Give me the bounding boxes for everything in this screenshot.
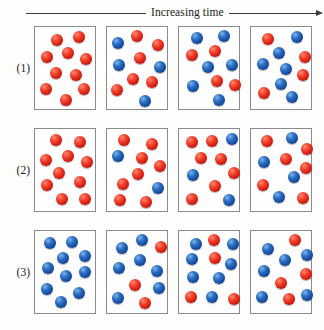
red-sphere (40, 83, 52, 95)
blue-sphere (116, 242, 128, 254)
blue-sphere (213, 272, 225, 284)
red-sphere (80, 53, 92, 65)
red-sphere (146, 138, 158, 150)
blue-sphere (139, 95, 151, 107)
row2-box3 (178, 128, 240, 212)
blue-sphere (154, 61, 166, 73)
blue-sphere (202, 61, 214, 73)
row-3-label: (3) (0, 266, 34, 278)
row-3-boxes (34, 230, 324, 314)
row3-box3 (178, 230, 240, 314)
red-sphere (289, 234, 301, 246)
red-sphere (195, 152, 207, 164)
blue-sphere (152, 182, 164, 194)
red-sphere (41, 51, 53, 63)
red-sphere (53, 167, 65, 179)
blue-sphere (73, 287, 85, 299)
blue-sphere (275, 78, 287, 90)
row1-box3 (178, 26, 240, 110)
blue-sphere (213, 94, 225, 106)
blue-sphere (191, 32, 203, 44)
row1-box4 (250, 26, 312, 110)
blue-sphere (44, 237, 56, 249)
row-1-label: (1) (0, 62, 34, 74)
blue-sphere (258, 156, 270, 168)
red-sphere (297, 69, 309, 81)
red-sphere (74, 176, 86, 188)
red-sphere (229, 79, 241, 91)
red-sphere (208, 234, 220, 246)
blue-sphere (273, 47, 285, 59)
blue-sphere (257, 58, 269, 70)
red-sphere (297, 192, 309, 204)
row2-box2 (106, 128, 168, 212)
red-sphere (60, 94, 72, 106)
row-1: (1) (0, 24, 324, 112)
red-sphere (275, 277, 287, 289)
blue-sphere (151, 265, 163, 277)
blue-sphere (79, 250, 91, 262)
red-sphere (40, 154, 52, 166)
blue-sphere (60, 270, 72, 282)
red-sphere (127, 73, 139, 85)
blue-sphere (226, 133, 238, 145)
red-sphere (111, 84, 123, 96)
blue-sphere (113, 59, 125, 71)
red-sphere (73, 31, 85, 43)
red-sphere (62, 47, 74, 59)
row-1-boxes (34, 26, 324, 110)
red-sphere (51, 34, 63, 46)
red-sphere (118, 134, 130, 146)
blue-sphere (113, 262, 125, 274)
red-sphere (62, 150, 74, 162)
arrow-right-icon (316, 10, 323, 16)
red-sphere (185, 291, 197, 303)
blue-sphere (41, 283, 53, 295)
red-sphere (206, 135, 218, 147)
red-sphere (131, 30, 143, 42)
axis-line-left (26, 13, 146, 14)
blue-sphere (273, 191, 285, 203)
row-3: (3) (0, 228, 324, 316)
red-sphere (261, 135, 273, 147)
blue-sphere (288, 171, 300, 183)
blue-sphere (57, 252, 69, 264)
red-sphere (41, 179, 53, 191)
blue-sphere (301, 289, 313, 301)
red-sphere (209, 180, 221, 192)
red-sphere (258, 87, 270, 99)
red-sphere (74, 136, 86, 148)
blue-sphere (227, 238, 239, 250)
red-sphere (228, 293, 240, 305)
red-sphere (79, 193, 91, 205)
red-sphere (78, 83, 90, 95)
blue-sphere (286, 91, 298, 103)
red-sphere (300, 268, 312, 280)
red-sphere (140, 196, 152, 208)
blue-sphere (79, 266, 91, 278)
blue-sphere (256, 291, 268, 303)
red-sphere (283, 293, 295, 305)
blue-sphere (187, 271, 199, 283)
red-sphere (154, 160, 166, 172)
row2-box4 (250, 128, 312, 212)
red-sphere (50, 134, 62, 146)
red-sphere (114, 194, 126, 206)
blue-sphere (186, 253, 198, 265)
red-sphere (228, 167, 240, 179)
blue-sphere (187, 80, 199, 92)
blue-sphere (218, 30, 230, 42)
blue-sphere (187, 169, 199, 181)
blue-sphere (136, 234, 148, 246)
red-sphere (299, 51, 311, 63)
blue-sphere (258, 265, 270, 277)
reaction-progress-figure: Increasing time (1)(2)(3) (0, 0, 324, 330)
row-2-label: (2) (0, 164, 34, 176)
blue-sphere (301, 249, 313, 261)
blue-sphere (206, 291, 218, 303)
blue-sphere (134, 254, 146, 266)
red-sphere (262, 33, 274, 45)
red-sphere (81, 156, 93, 168)
red-sphere (280, 153, 292, 165)
red-sphere (132, 168, 144, 180)
